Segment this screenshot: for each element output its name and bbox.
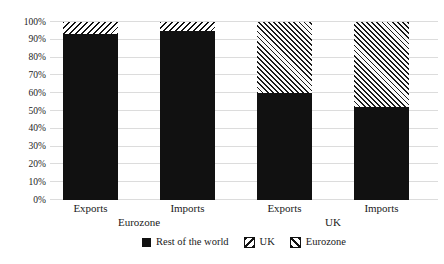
bar-slot [236, 22, 333, 200]
stacked-bar-chart-figure: 0%10%20%30%40%50%60%70%80%90%100% Export… [0, 0, 444, 264]
bar-segment-eurozone [257, 22, 312, 93]
legend: Rest of the worldUKEurozone [50, 237, 438, 248]
x-category-label: Imports [333, 202, 430, 215]
bar-segment-uk [63, 22, 118, 34]
legend-label: Eurozone [306, 237, 346, 248]
legend-swatch-icon [290, 237, 301, 248]
plot-area [50, 22, 438, 200]
bar-segment-rest-of-the-world [63, 34, 118, 200]
bar-imports-3 [354, 22, 409, 200]
legend-item-rest-of-the-world: Rest of the world [142, 237, 229, 248]
x-axis-group-labels: EurozoneUK [42, 216, 430, 229]
x-group-label-uk: UK [236, 216, 430, 229]
x-group-label-eurozone: Eurozone [42, 216, 236, 229]
legend-item-uk: UK [244, 237, 275, 248]
x-category-label: Exports [236, 202, 333, 215]
y-axis: 0%10%20%30%40%50%60%70%80%90%100% [0, 22, 46, 200]
bar-segment-rest-of-the-world [160, 31, 215, 200]
bar-slot [333, 22, 430, 200]
bar-segment-rest-of-the-world [354, 107, 409, 200]
bar-slot [42, 22, 139, 200]
bar-slot [139, 22, 236, 200]
legend-swatch-icon [244, 237, 255, 248]
x-category-label: Imports [139, 202, 236, 215]
bar-segment-rest-of-the-world [257, 93, 312, 200]
x-category-label: Exports [42, 202, 139, 215]
legend-swatch-icon [142, 238, 151, 247]
bar-segment-eurozone [354, 22, 409, 107]
x-axis-category-labels: ExportsImportsExportsImports [42, 202, 430, 215]
legend-label: UK [260, 237, 275, 248]
legend-item-eurozone: Eurozone [290, 237, 346, 248]
legend-label: Rest of the world [156, 237, 229, 248]
bar-imports-1 [160, 22, 215, 200]
bar-exports-0 [63, 22, 118, 200]
bars-layer [42, 22, 430, 200]
bar-exports-2 [257, 22, 312, 200]
bar-segment-uk [160, 22, 215, 31]
